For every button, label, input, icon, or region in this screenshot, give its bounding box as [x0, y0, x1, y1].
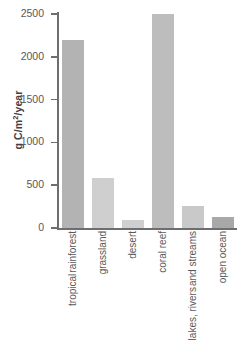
x-label-line: rainforest	[67, 231, 79, 273]
y-tick-label: 2500	[4, 7, 44, 19]
x-label-grassland: grassland	[90, 231, 116, 303]
x-label-open-ocean: open ocean	[210, 231, 236, 303]
x-label-line: desert	[127, 231, 139, 259]
x-axis-line	[57, 228, 237, 230]
y-tick-label: 500	[4, 178, 44, 190]
bar-open-ocean	[212, 217, 234, 228]
y-axis-title-superscript: 2	[11, 116, 20, 120]
y-tick-label: 1000	[4, 135, 44, 147]
x-label-coral-reef: coral reef	[150, 231, 176, 303]
x-axis-category-labels: tropicalrainforestgrasslanddesertcoral r…	[57, 231, 237, 304]
y-tick-label: 0	[4, 221, 44, 233]
x-label-tropical-rainforest: tropicalrainforest	[60, 231, 86, 303]
bar-desert	[122, 220, 144, 228]
x-label-line: open ocean	[217, 231, 229, 283]
x-label-line: tropical	[67, 274, 79, 306]
x-label-lakes-rivers-and-streams: lakes, riversand streams	[180, 231, 206, 303]
bar-lakes-rivers-and-streams	[182, 206, 204, 228]
y-tick-label: 2000	[4, 50, 44, 62]
bar-tropical-rainforest	[62, 40, 84, 228]
x-label-desert: desert	[120, 231, 146, 303]
x-label-line: grassland	[97, 231, 109, 274]
y-tick-label: 1500	[4, 93, 44, 105]
y-axis-title: g C/m2/year	[12, 75, 24, 165]
x-label-line: coral reef	[157, 231, 169, 273]
x-label-line: and streams	[187, 231, 199, 286]
bar-coral-reef	[152, 14, 174, 228]
bars-layer	[57, 14, 237, 228]
x-label-line: lakes, rivers	[187, 287, 199, 340]
bar-grassland	[92, 178, 114, 228]
